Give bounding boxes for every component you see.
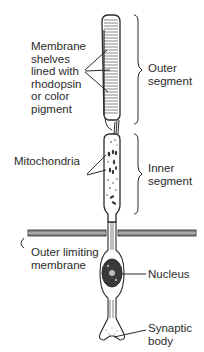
axon	[100, 298, 125, 340]
label-outer-limiting-membrane: Outer limiting membrane	[31, 246, 99, 271]
label-outer-segment: Outer segment	[148, 62, 192, 87]
label-synaptic-body: Synaptic body	[148, 322, 192, 347]
label-inner-segment: Inner segment	[148, 162, 192, 187]
synaptic-body	[105, 327, 117, 334]
label-nucleus: Nucleus	[148, 268, 190, 281]
outer-segment-brace	[134, 15, 142, 124]
label-membrane-shelves: Membrane shelves lined with rhodopsin or…	[31, 40, 86, 115]
outer-segment	[102, 15, 120, 120]
inner-segment-brace	[134, 134, 142, 214]
inner-segment	[104, 134, 120, 222]
label-mitochondria: Mitochondria	[14, 155, 80, 168]
nucleus	[102, 259, 122, 287]
outer-limiting-membrane-band	[28, 230, 196, 236]
